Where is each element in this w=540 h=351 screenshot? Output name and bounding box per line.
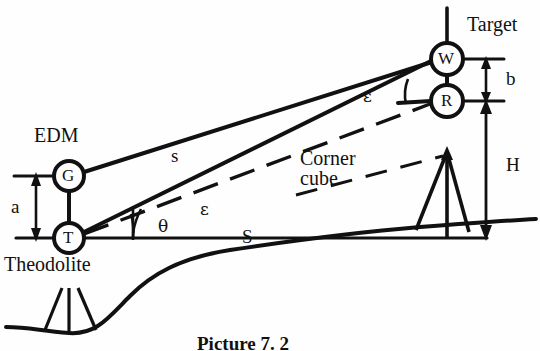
angle-label-theta: θ bbox=[158, 218, 168, 235]
figure-container: G T W R EDM Theodolite Target Corner cub… bbox=[0, 0, 540, 351]
corner-cube-label: Corner cube bbox=[300, 148, 356, 189]
dimension-arrow-h bbox=[480, 99, 492, 241]
node-label-w: W bbox=[438, 50, 454, 67]
angle-label-epsilon-upper: ε bbox=[363, 88, 372, 105]
dimension-label-h: H bbox=[506, 155, 520, 174]
node-label-g: G bbox=[62, 167, 74, 184]
diagram-canvas bbox=[0, 0, 540, 351]
distance-s-line bbox=[84, 62, 432, 172]
angle-arc-epsilon-upper bbox=[405, 79, 408, 104]
node-label-t: T bbox=[63, 229, 73, 246]
dimension-label-b: b bbox=[506, 69, 516, 88]
theodolite-tripod bbox=[45, 288, 96, 331]
node-label-r: R bbox=[441, 92, 452, 109]
dimension-label-s-large: S bbox=[242, 227, 253, 246]
figure-caption: Picture 7. 2 bbox=[197, 334, 289, 351]
angle-label-epsilon-lower: ε bbox=[200, 201, 209, 218]
sight-line-t-r-dashed bbox=[84, 104, 430, 234]
target-label: Target bbox=[467, 14, 517, 34]
dimension-label-s-small: s bbox=[171, 146, 178, 165]
dimension-arrow-b bbox=[481, 56, 491, 104]
dimension-arrow-a bbox=[31, 172, 41, 242]
edm-label: EDM bbox=[34, 125, 78, 145]
sight-line-t-w bbox=[82, 60, 433, 233]
reflector-arm bbox=[398, 101, 431, 103]
dimension-label-a: a bbox=[11, 197, 19, 216]
theodolite-label: Theodolite bbox=[4, 254, 91, 274]
